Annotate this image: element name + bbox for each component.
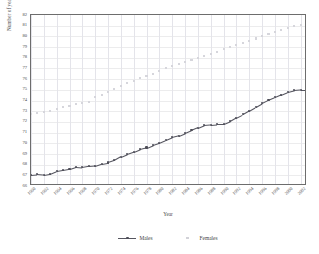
data-point-females [139, 77, 141, 79]
x-tick-label: 1966 [60, 186, 75, 201]
data-point-males [165, 139, 167, 141]
data-point-males [248, 110, 250, 112]
data-point-males [197, 127, 199, 129]
x-tick-label: 1992 [227, 186, 242, 201]
data-point-males [94, 165, 96, 167]
x-tick-label: 1968 [73, 186, 88, 201]
data-point-females [178, 63, 180, 65]
data-point-males [56, 170, 58, 172]
y-tick-label: 69 [14, 151, 27, 156]
data-point-males [126, 153, 128, 155]
data-point-males [210, 124, 212, 126]
data-point-females [36, 112, 38, 114]
data-point-females [287, 27, 289, 29]
data-point-males [101, 163, 103, 165]
legend-item-males: Males [118, 235, 152, 241]
data-point-males [261, 102, 263, 104]
data-point-males [300, 89, 302, 91]
data-point-males [62, 169, 64, 171]
y-tick-label: 82 [14, 12, 27, 17]
data-point-females [235, 44, 237, 46]
x-tick-label: 1974 [112, 186, 127, 201]
legend-item-females: Females [179, 235, 218, 241]
x-tick-label: 2000 [278, 186, 293, 201]
data-point-males [184, 132, 186, 134]
data-point-females [293, 25, 295, 27]
data-point-males [223, 123, 225, 125]
y-tick-label: 72 [14, 118, 27, 123]
data-point-males [216, 123, 218, 125]
data-point-males [255, 106, 257, 108]
data-point-females [81, 102, 83, 104]
x-tick-label: 1964 [47, 186, 62, 201]
data-point-males [152, 144, 154, 146]
x-tick-label: 1998 [266, 186, 281, 201]
x-tick-label: 1960 [22, 186, 37, 201]
data-point-females [248, 40, 250, 42]
y-tick-label: 70 [14, 140, 27, 145]
y-tick-label: 76 [14, 76, 27, 81]
data-point-females [197, 57, 199, 59]
x-tick-label: 1978 [137, 186, 152, 201]
x-tick-label: 1972 [99, 186, 114, 201]
y-tick-label: 80 [14, 33, 27, 38]
x-tick-label: 1984 [176, 186, 191, 201]
data-point-females [133, 80, 135, 82]
data-point-females [152, 73, 154, 75]
data-point-females [101, 94, 103, 96]
x-tick-label: 1990 [214, 186, 229, 201]
data-point-females [75, 103, 77, 105]
x-tick-label: 1996 [253, 186, 268, 201]
data-point-males [43, 174, 45, 176]
data-point-females [158, 70, 160, 72]
data-point-males [120, 156, 122, 158]
data-point-females [107, 91, 109, 93]
legend-label-females: Females [200, 235, 218, 241]
x-tick-label: 1994 [240, 186, 255, 201]
legend-marker-females-icon [179, 236, 197, 241]
data-point-males [287, 91, 289, 93]
data-point-females [30, 113, 32, 115]
data-point-males [49, 173, 51, 175]
data-point-females [56, 108, 58, 110]
data-point-males [178, 135, 180, 137]
data-series-layer [31, 15, 305, 184]
x-tick-label: 1982 [163, 186, 178, 201]
data-point-males [68, 168, 70, 170]
x-tick-label: 1962 [35, 186, 50, 201]
data-point-females [190, 59, 192, 61]
data-point-females [126, 82, 128, 84]
data-point-females [203, 55, 205, 57]
data-point-females [43, 111, 45, 113]
data-point-males [145, 146, 147, 148]
data-point-females [94, 96, 96, 98]
data-point-females [120, 85, 122, 87]
chart-legend: Males Females [30, 231, 306, 245]
data-point-males [88, 165, 90, 167]
y-tick-label: 79 [14, 44, 27, 49]
data-point-females [171, 65, 173, 67]
data-point-females [300, 24, 302, 26]
x-tick-label: 1980 [150, 186, 165, 201]
data-point-females [68, 105, 70, 107]
data-point-females [223, 48, 225, 50]
data-point-females [113, 88, 115, 90]
data-point-females [49, 110, 51, 112]
data-point-males [139, 148, 141, 150]
data-point-males [107, 161, 109, 163]
data-point-females [88, 101, 90, 103]
x-tick-label: 1986 [189, 186, 204, 201]
x-tick-label: 2002 [291, 186, 306, 201]
data-point-males [133, 151, 135, 153]
data-point-females [165, 67, 167, 69]
data-point-males [274, 96, 276, 98]
y-tick-label: 67 [14, 172, 27, 177]
y-tick-label: 78 [14, 54, 27, 59]
y-tick-label: 75 [14, 86, 27, 91]
data-point-males [267, 99, 269, 101]
data-point-females [229, 46, 231, 48]
data-point-males [30, 174, 32, 176]
data-point-females [267, 33, 269, 35]
y-tick-label: 81 [14, 22, 27, 27]
data-point-females [242, 42, 244, 44]
